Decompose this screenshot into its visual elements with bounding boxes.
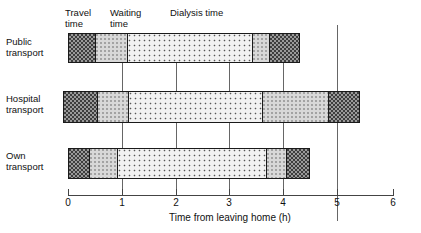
- x-tick-label-2: 2: [169, 197, 183, 208]
- category-label-public-transport: Public transport: [6, 36, 64, 58]
- chart-canvas: Travel time Waiting time Dialysis time P…: [0, 0, 421, 233]
- legend-travel-time: Travel time: [65, 8, 109, 29]
- x-tick-5: [337, 189, 338, 196]
- bar-segment-waiting-before: [95, 33, 128, 63]
- x-tick-label-0: 0: [61, 197, 75, 208]
- bar-segment-travel-return: [328, 91, 360, 123]
- bar-segment-travel-return: [286, 148, 310, 179]
- x-tick-label-4: 4: [276, 197, 290, 208]
- bar-segment-dialysis: [127, 33, 253, 63]
- bar-segment-waiting-after: [266, 148, 287, 179]
- x-axis-line: [68, 195, 394, 196]
- legend-waiting-time: Waiting time: [110, 8, 158, 29]
- category-label-hospital-transport: Hospital transport: [6, 93, 64, 115]
- x-tick-4: [283, 189, 284, 196]
- bar-segment-travel-out: [68, 33, 96, 63]
- x-tick-label-1: 1: [115, 197, 129, 208]
- bar-segment-waiting-before: [97, 91, 129, 123]
- bar-segment-travel-return: [269, 33, 300, 63]
- legend-dialysis-time: Dialysis time: [170, 8, 250, 19]
- x-tick-3: [229, 189, 230, 196]
- x-tick-label-6: 6: [386, 197, 400, 208]
- x-axis-title: Time from leaving home (h): [120, 212, 340, 223]
- bar-segment-waiting-after: [262, 91, 329, 123]
- category-label-own-transport: Own transport: [6, 150, 64, 172]
- x-tick-6: [393, 189, 394, 196]
- bar-segment-dialysis: [117, 148, 267, 179]
- bar-segment-travel-out: [63, 91, 98, 123]
- x-tick-0: [68, 189, 69, 196]
- x-tick-label-3: 3: [222, 197, 236, 208]
- bar-segment-travel-out: [68, 148, 90, 179]
- bar-segment-waiting-before: [89, 148, 118, 179]
- bar-segment-dialysis: [128, 91, 263, 123]
- x-tick-label-5: 5: [330, 197, 344, 208]
- x-tick-2: [176, 189, 177, 196]
- bar-segment-waiting-after: [252, 33, 270, 63]
- x-tick-1: [122, 189, 123, 196]
